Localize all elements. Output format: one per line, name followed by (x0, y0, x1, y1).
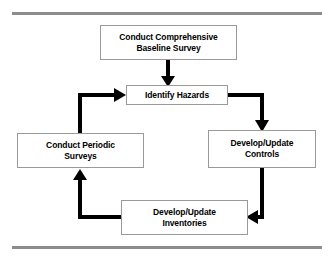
node-identify-hazards: Identify Hazards (126, 85, 228, 105)
node-develop-update-inventories: Develop/Update Inventories (121, 200, 248, 235)
node-baseline-survey: Conduct Comprehensive Baseline Survey (100, 25, 237, 60)
node-develop-update-controls-label: Develop/Update Controls (228, 138, 297, 160)
node-baseline-survey-label: Conduct Comprehensive Baseline Survey (116, 32, 221, 54)
node-conduct-periodic-surveys-label: Conduct Periodic Surveys (43, 140, 118, 162)
node-conduct-periodic-surveys: Conduct Periodic Surveys (17, 133, 144, 168)
edge-baseline-to-hazards (161, 60, 175, 87)
edge-controls-to-inventories (246, 168, 262, 224)
node-develop-update-controls: Develop/Update Controls (208, 130, 316, 168)
edge-surveys-to-hazards (80, 88, 126, 133)
node-identify-hazards-label: Identify Hazards (142, 90, 212, 101)
flowchart-diagram: Conduct Comprehensive Baseline Survey Id… (0, 0, 333, 258)
node-develop-update-inventories-label: Develop/Update Inventories (150, 207, 219, 229)
edge-inventories-to-surveys (73, 169, 121, 217)
edge-hazards-to-controls (228, 95, 269, 132)
